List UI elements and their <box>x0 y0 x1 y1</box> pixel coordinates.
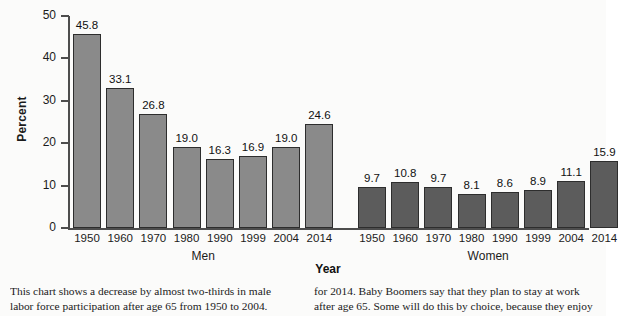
bar <box>173 147 201 228</box>
x-tick-label: 1970 <box>141 232 167 244</box>
y-tick-mark <box>61 227 69 229</box>
x-tick-label: 2004 <box>558 232 584 244</box>
bar <box>391 182 419 228</box>
bar <box>590 161 618 228</box>
y-tick-label: 40 <box>30 50 56 64</box>
x-tick-label: 1980 <box>459 232 485 244</box>
bar <box>139 114 167 228</box>
x-tick-label: 1960 <box>107 232 133 244</box>
bar-value-label: 33.1 <box>109 73 131 85</box>
y-tick-label: 30 <box>30 93 56 107</box>
x-tick-label: 1960 <box>392 232 418 244</box>
bar <box>206 159 234 228</box>
bar-value-label: 10.8 <box>394 167 416 179</box>
x-tick-label: 1970 <box>426 232 452 244</box>
bar-value-label: 19.0 <box>275 132 297 144</box>
y-tick-mark <box>61 15 69 17</box>
bar <box>424 187 452 228</box>
caption-right-column: for 2014. Baby Boomers say that they pla… <box>314 284 596 316</box>
bar-value-label: 11.1 <box>560 166 582 178</box>
bar-value-label: 9.7 <box>430 172 446 184</box>
x-tick-label: 1999 <box>240 232 266 244</box>
y-tick-mark <box>61 57 69 59</box>
bar <box>73 34 101 228</box>
y-tick-label: 0 <box>30 220 56 234</box>
bar <box>458 194 486 228</box>
y-tick-label: 20 <box>30 135 56 149</box>
bar <box>106 88 134 228</box>
bar-value-label: 19.0 <box>175 132 197 144</box>
bar-value-label: 8.9 <box>530 175 546 187</box>
bar <box>524 190 552 228</box>
bar-chart-figure: Percent 50403020100 45.833.126.819.016.3… <box>0 0 606 276</box>
group-label: Men <box>192 249 215 263</box>
plot-area: Percent 50403020100 45.833.126.819.016.3… <box>0 0 606 276</box>
bar-value-label: 15.9 <box>593 146 615 158</box>
bar-value-label: 8.6 <box>497 177 513 189</box>
x-tick-label: 1950 <box>74 232 100 244</box>
bar-value-label: 8.1 <box>464 179 480 191</box>
y-tick-label: 10 <box>30 178 56 192</box>
bar-value-label: 26.8 <box>142 99 164 111</box>
y-tick-mark <box>61 185 69 187</box>
x-tick-label: 1990 <box>492 232 518 244</box>
x-tick-label: 1980 <box>174 232 200 244</box>
y-tick-label: 50 <box>30 8 56 22</box>
x-tick-label: 2014 <box>307 232 333 244</box>
bar <box>358 187 386 228</box>
y-axis-line <box>68 16 70 229</box>
bar <box>491 192 519 228</box>
bar-value-label: 16.3 <box>209 144 231 156</box>
x-tick-label: 2004 <box>273 232 299 244</box>
x-tick-label: 1950 <box>359 232 385 244</box>
bar-value-label: 45.8 <box>76 19 98 31</box>
y-axis-title: Percent <box>15 79 29 159</box>
x-axis-title: Year <box>315 262 340 276</box>
x-tick-label: 1990 <box>207 232 233 244</box>
caption-block: This chart shows a decrease by almost tw… <box>0 284 606 316</box>
bar-value-label: 16.9 <box>242 141 264 153</box>
x-axis-line <box>68 228 589 230</box>
caption-left-column: This chart shows a decrease by almost tw… <box>10 284 292 316</box>
bar-value-label: 9.7 <box>364 172 380 184</box>
bar <box>305 124 333 228</box>
bar <box>272 147 300 228</box>
group-label: Women <box>468 249 509 263</box>
bar <box>239 156 267 228</box>
y-tick-mark <box>61 142 69 144</box>
bar-value-label: 24.6 <box>308 109 330 121</box>
bar <box>557 181 585 228</box>
y-tick-mark <box>61 100 69 102</box>
x-tick-label: 1999 <box>525 232 551 244</box>
x-tick-label: 2014 <box>592 232 618 244</box>
